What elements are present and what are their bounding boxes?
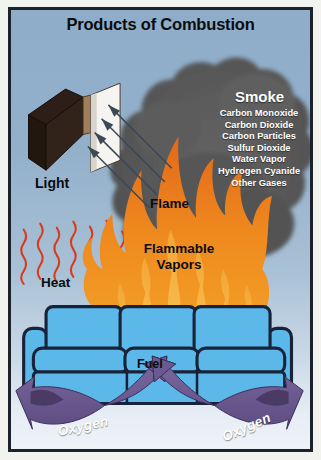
list-item: Carbon Particles	[189, 131, 310, 143]
list-item: Water Vapor	[189, 154, 310, 166]
list-item: Carbon Dioxide	[189, 120, 310, 132]
list-item: Hydrogen Cyanide	[189, 166, 310, 178]
label-flammable-vapors: Flammable Vapors	[124, 241, 234, 273]
illustration-stage: Products of Combustion Smoke Carbon Mono…	[11, 10, 310, 449]
label-flammable-vapors-line1: Flammable	[124, 241, 234, 257]
light-block-group	[11, 10, 310, 449]
page-title: Products of Combustion	[11, 15, 310, 34]
list-item: Other Gases	[189, 178, 310, 190]
label-flammable-vapors-line2: Vapors	[124, 257, 234, 273]
smoke-heading: Smoke	[197, 88, 310, 105]
block-edge-strip	[83, 95, 91, 135]
list-item: Carbon Monoxide	[189, 108, 310, 120]
smoke-component-list: Carbon Monoxide Carbon Dioxide Carbon Pa…	[189, 108, 310, 189]
label-flame: Flame	[150, 196, 189, 211]
poster-frame: Products of Combustion Smoke Carbon Mono…	[8, 7, 313, 452]
label-heat: Heat	[41, 275, 70, 290]
block-left-face	[29, 115, 47, 170]
list-item: Sulfur Dioxide	[189, 143, 310, 155]
label-light: Light	[35, 175, 69, 191]
label-fuel: Fuel	[137, 357, 163, 371]
poster-root: Products of Combustion Smoke Carbon Mono…	[0, 0, 321, 460]
